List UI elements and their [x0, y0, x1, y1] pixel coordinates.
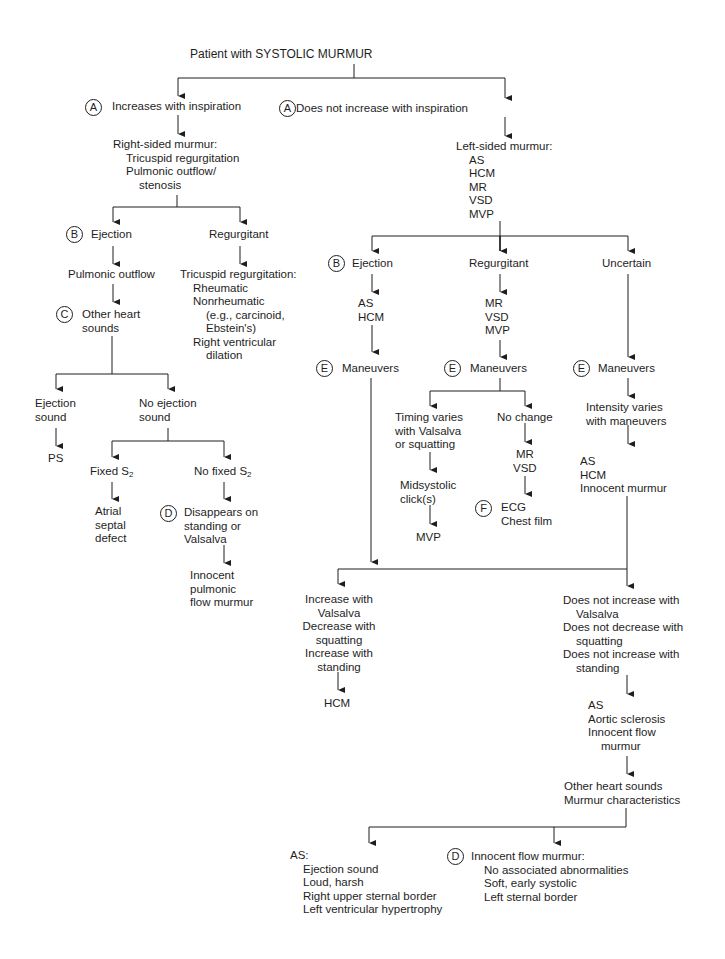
- no-ejection-sound: No ejection sound: [139, 397, 197, 424]
- timing-varies: Timing varies with Valsalva or squatting: [395, 411, 463, 452]
- uncertain-maneuvers: Maneuvers: [598, 362, 655, 376]
- mvp-result: MVP: [416, 531, 441, 545]
- regurgitant-dx: MR VSD MVP: [485, 297, 510, 338]
- mr-vsd: MR VSD: [513, 448, 537, 475]
- badge-b-icon: B: [66, 226, 83, 243]
- as-sclerosis-group: AS Aortic sclerosis Innocent flow murmur: [588, 699, 665, 753]
- left-ejection: Ejection: [352, 257, 393, 271]
- badge-e-icon: E: [573, 360, 590, 377]
- does-not-increase-with-inspiration: Does not increase with inspiration: [296, 102, 468, 116]
- badge-e-icon: E: [444, 360, 461, 377]
- pulmonic-outflow: Pulmonic outflow: [68, 268, 155, 282]
- innocent-pulmonic-flow-murmur: Innocent pulmonic flow murmur: [190, 569, 253, 610]
- badge-a-icon: A: [279, 100, 296, 117]
- other-sounds-characteristics: Other heart sounds Murmur characteristic…: [564, 780, 680, 807]
- atrial-septal-defect: Atrial septal defect: [95, 505, 126, 546]
- hcm-result: HCM: [324, 697, 350, 711]
- badge-b-icon: B: [328, 255, 345, 272]
- badge-c-icon: C: [56, 306, 73, 323]
- disappears-on-standing: Disappears on standing or Valsalva: [184, 506, 258, 547]
- no-fixed-s2: No fixed S2: [194, 465, 252, 482]
- intensity-varies: Intensity varies with maneuvers: [586, 401, 667, 428]
- left-regurgitant: Regurgitant: [469, 257, 528, 271]
- badge-f-icon: F: [475, 500, 492, 517]
- innocent-flow-murmur-features: Innocent flow murmur: No associated abno…: [471, 850, 628, 904]
- right-ejection: Ejection: [91, 228, 132, 242]
- fixed-s2: Fixed S2: [90, 465, 133, 482]
- ejection-sound: Ejection sound: [35, 397, 76, 424]
- right-sided-murmur: Right-sided murmur: Tricuspid regurgitat…: [113, 138, 239, 192]
- midsystolic-clicks: Midsystolic click(s): [400, 479, 456, 506]
- does-not-change-group: Does not increase with Valsalva Does not…: [563, 594, 683, 675]
- left-sided-murmur: Left-sided murmur: AS HCM MR VSD MVP: [456, 140, 553, 221]
- badge-a-icon: A: [85, 99, 102, 116]
- systolic-murmur-flowchart: Patient with SYSTOLIC MURMUR A Increases…: [0, 0, 725, 959]
- uncertain: Uncertain: [602, 257, 651, 271]
- as-final-features: AS: Ejection sound Loud, harsh Right upp…: [290, 849, 442, 917]
- regurgitant-maneuvers: Maneuvers: [470, 362, 527, 376]
- no-change: No change: [497, 411, 553, 425]
- increases-with-inspiration: Increases with inspiration: [112, 100, 241, 114]
- tricuspid-regurgitation-causes: Tricuspid regurgitation: Rheumatic Nonrh…: [180, 268, 297, 363]
- ejection-maneuvers: Maneuvers: [342, 362, 399, 376]
- root-title: Patient with SYSTOLIC MURMUR: [190, 48, 373, 62]
- badge-e-icon: E: [316, 360, 333, 377]
- ejection-dx: AS HCM: [358, 297, 384, 324]
- ps: PS: [48, 452, 63, 466]
- uncertain-dx: AS HCM Innocent murmur: [580, 455, 667, 496]
- other-heart-sounds: Other heart sounds: [82, 308, 140, 335]
- right-regurgitant: Regurgitant: [209, 228, 268, 242]
- badge-d-icon: D: [447, 848, 464, 865]
- badge-d-icon: D: [160, 505, 177, 522]
- increase-with-valsalva-group: Increase with Valsalva Decrease with squ…: [298, 593, 380, 674]
- ecg-chest-film: ECG Chest film: [501, 501, 552, 528]
